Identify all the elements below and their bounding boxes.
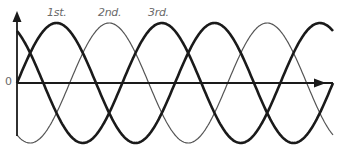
- vertical-axis-arrow-icon: [13, 11, 22, 22]
- phase-label-2nd: 2nd.: [98, 6, 121, 19]
- phase-label-1st: 1st.: [47, 6, 66, 19]
- origin-label: 0: [5, 75, 12, 88]
- horizontal-axis-arrow-icon: [314, 79, 326, 88]
- phase-label-3rd: 3rd.: [148, 6, 169, 19]
- three-phase-diagram: [0, 0, 343, 162]
